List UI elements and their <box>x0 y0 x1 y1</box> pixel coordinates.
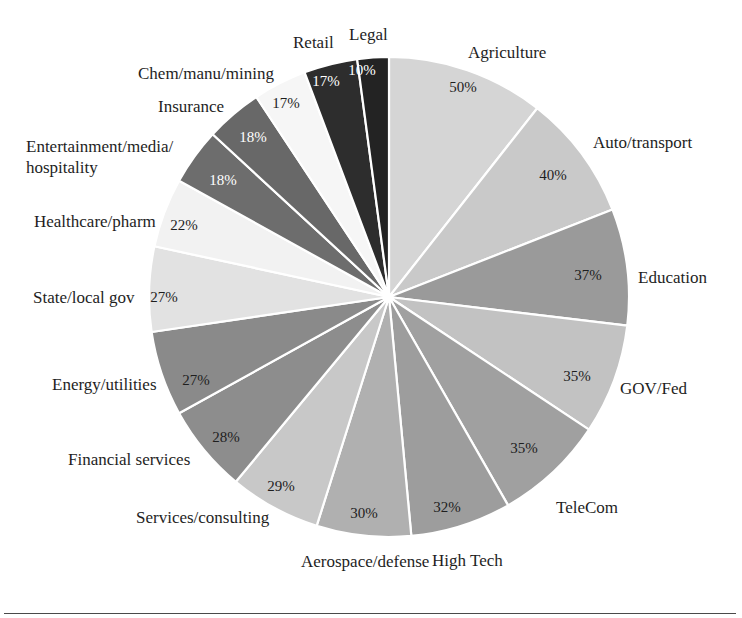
pie-slice-value: 18% <box>239 129 267 145</box>
pie-slice-label: TeleCom <box>556 498 618 517</box>
pie-slice-label: Auto/transport <box>593 133 692 152</box>
pie-slice-label: Legal <box>349 25 388 44</box>
pie-slice-value: 18% <box>209 172 237 188</box>
pie-slice-label-line: Energy/utilities <box>52 375 157 394</box>
pie-slice-label-line: State/local gov <box>33 288 135 307</box>
pie-slice-label: Retail <box>293 33 334 52</box>
pie-slice-value: 10% <box>348 62 376 78</box>
pie-slice-value: 37% <box>574 267 602 283</box>
pie-slice-label-line: Aerospace/defense <box>301 552 429 571</box>
pie-slice-value: 22% <box>170 217 198 233</box>
pie-slices-group <box>149 57 629 537</box>
pie-slice-label-line: Auto/transport <box>593 133 692 152</box>
pie-slice-label: Healthcare/pharm <box>34 212 156 231</box>
pie-chart-figure: 50%40%37%35%35%32%30%29%28%27%27%22%18%1… <box>0 0 742 618</box>
pie-slice-label-line: Financial services <box>68 450 190 469</box>
pie-slice-label-line: TeleCom <box>556 498 618 517</box>
pie-slice-value: 35% <box>563 368 591 384</box>
pie-slice-label-line: Chem/manu/mining <box>138 64 274 83</box>
pie-slice-label-line: Agriculture <box>468 43 546 62</box>
pie-slice-value: 27% <box>150 289 178 305</box>
pie-slice-value: 27% <box>182 372 210 388</box>
pie-slice-label: Chem/manu/mining <box>138 64 274 83</box>
pie-slice-value: 17% <box>272 95 300 111</box>
pie-slice-label: GOV/Fed <box>620 379 688 398</box>
pie-slice-label: State/local gov <box>33 288 135 307</box>
pie-slice-label-line: Services/consulting <box>136 508 270 527</box>
pie-slice-label-line: High Tech <box>432 551 503 570</box>
pie-slice-label-line: Retail <box>293 33 334 52</box>
figure-bottom-rule <box>4 613 736 614</box>
pie-slice-label: Energy/utilities <box>52 375 157 394</box>
pie-slice-label-line: hospitality <box>26 158 98 177</box>
pie-slice-label: Aerospace/defense <box>301 552 429 571</box>
pie-slice-label: Insurance <box>158 97 224 116</box>
pie-slice-label-line: Healthcare/pharm <box>34 212 156 231</box>
pie-slice-value: 40% <box>539 167 567 183</box>
pie-slice-label: Financial services <box>68 450 190 469</box>
pie-slice-label-line: Legal <box>349 25 388 44</box>
pie-slice-value: 32% <box>433 499 461 515</box>
pie-chart-svg: 50%40%37%35%35%32%30%29%28%27%27%22%18%1… <box>0 0 742 618</box>
pie-slice-value: 17% <box>312 73 340 89</box>
pie-slice-value: 35% <box>510 440 538 456</box>
pie-slice-label: Agriculture <box>468 43 546 62</box>
pie-slice-value: 50% <box>449 79 477 95</box>
pie-slice-label: Services/consulting <box>136 508 270 527</box>
pie-slice-label: Education <box>638 268 707 287</box>
pie-slice-label: Entertainment/media/hospitality <box>26 137 174 177</box>
pie-slice-label-line: Entertainment/media/ <box>26 137 174 156</box>
pie-slice-label-line: Education <box>638 268 707 287</box>
pie-slice-label: High Tech <box>432 551 503 570</box>
pie-slice-value: 30% <box>350 505 378 521</box>
pie-slice-label-line: GOV/Fed <box>620 379 688 398</box>
pie-slice-label-line: Insurance <box>158 97 224 116</box>
pie-slice-value: 29% <box>267 478 295 494</box>
pie-slice-value: 28% <box>212 429 240 445</box>
